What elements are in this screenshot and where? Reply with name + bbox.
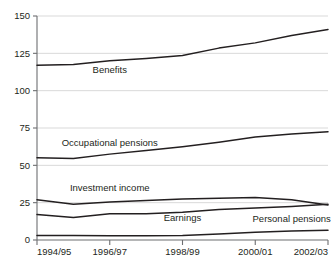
x-tick-label: 1996/97	[93, 246, 127, 257]
x-tick-label: 2000/01	[238, 246, 272, 257]
data-series	[37, 29, 328, 235]
y-tick-label: 0	[25, 234, 30, 245]
y-tick-label: 150	[14, 10, 30, 21]
series-line-personal-pensions	[37, 230, 328, 236]
x-tick-label: 2002/03	[294, 246, 328, 257]
y-tick-label: 100	[14, 85, 30, 96]
series-label-investment-income: Investment income	[70, 182, 150, 193]
line-chart: 0255075100125150 1994/951996/971998/9920…	[0, 0, 335, 265]
y-tick-label: 75	[19, 122, 30, 133]
x-tick-label: 1994/95	[37, 246, 71, 257]
series-line-investment-income	[37, 197, 328, 204]
series-label-occupational-pensions: Occupational pensions	[62, 137, 158, 148]
y-tick-label: 25	[19, 197, 30, 208]
gridlines	[37, 16, 328, 203]
series-line-benefits	[37, 29, 328, 65]
y-tick-label: 50	[19, 160, 30, 171]
y-tick-label: 125	[14, 48, 30, 59]
x-tick-label: 1998/99	[165, 246, 199, 257]
x-axis: 1994/951996/971998/992000/012002/03	[37, 240, 328, 257]
series-label-benefits: Benefits	[93, 64, 128, 75]
series-label-earnings: Earnings	[164, 212, 202, 223]
series-label-personal-pensions: Personal pensions	[253, 213, 331, 224]
y-axis: 0255075100125150	[14, 10, 37, 245]
chart-canvas: 0255075100125150 1994/951996/971998/9920…	[0, 0, 335, 265]
